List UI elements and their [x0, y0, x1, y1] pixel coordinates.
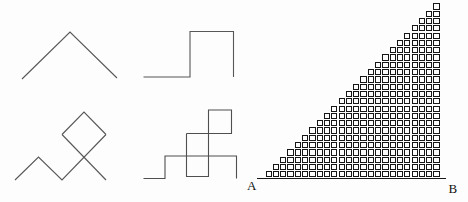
point-label-a: A: [247, 179, 256, 192]
square-step-path-figure: [144, 32, 234, 78]
path-segment: [62, 112, 106, 135]
path-segment: [15, 135, 106, 181]
path-segment: [22, 32, 117, 79]
point-label-b: B: [449, 182, 458, 195]
path-segment: [187, 110, 232, 177]
chevron-path-figure: [22, 32, 117, 79]
diamond-zigzag-path-figure: [15, 112, 106, 180]
path-segment: [144, 32, 234, 78]
path-figures-svg: [0, 0, 468, 202]
triangle-baseline: [257, 178, 446, 179]
diagram-canvas: A B: [0, 0, 468, 202]
path-segment: [144, 156, 237, 179]
stacked-squares-path-figure: [144, 110, 237, 179]
